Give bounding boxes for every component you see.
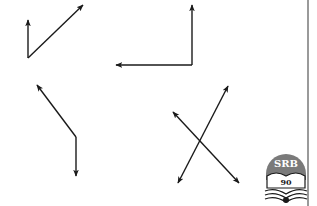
srb-logo: SRB 90 [263,150,309,206]
arrow-ray [28,5,83,58]
logo-top-text: SRB [274,158,298,169]
figure-3-obtuse-angle [37,85,76,176]
logo-number: 90 [280,177,292,187]
figure-4-intersecting-lines [173,86,239,183]
figure-1-acute-angle [28,5,83,58]
figure-2-right-angle [116,5,192,65]
arrow-ray [37,85,76,137]
double-arrow-line [178,86,228,183]
